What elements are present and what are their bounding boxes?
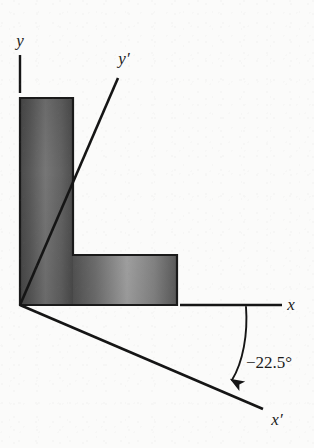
- x-prime-axis-label: x′: [270, 410, 283, 429]
- angle-label: −22.5°: [246, 353, 292, 372]
- l-shape-shading: [20, 98, 177, 305]
- y-axis-label: y: [14, 31, 24, 50]
- y-prime-axis-label: y′: [116, 49, 130, 68]
- angle-arc: [232, 307, 246, 380]
- x-axis-label: x: [286, 295, 295, 314]
- l-shape-section: [20, 98, 177, 305]
- x-prime-axis-line: [20, 305, 263, 409]
- coordinate-axes-diagram: y y′ x x′ −22.5°: [0, 0, 314, 448]
- figure-canvas: y y′ x x′ −22.5°: [0, 0, 314, 448]
